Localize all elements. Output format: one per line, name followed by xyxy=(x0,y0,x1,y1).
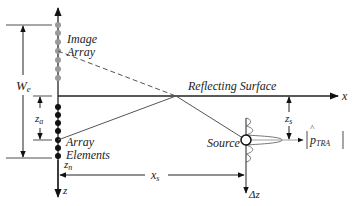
za-label: za xyxy=(34,112,43,126)
svg-text:pTRA: pTRA xyxy=(309,133,330,148)
z-axis-label: z xyxy=(62,184,68,196)
reflected-ray xyxy=(176,96,246,140)
xs-label: xs xyxy=(150,168,159,183)
dz-label: Δz xyxy=(248,188,260,200)
source-label: Source xyxy=(207,136,241,150)
x-axis-label: x xyxy=(341,89,348,103)
direct-ray xyxy=(58,96,176,140)
image-array-label-1: Image xyxy=(66,32,98,46)
array-elements-label-1: Array xyxy=(65,135,95,149)
array-element-dots xyxy=(55,104,61,159)
svg-text:^: ^ xyxy=(310,123,315,133)
zs-label: zs xyxy=(284,112,292,126)
reflecting-surface-label: Reflecting Surface xyxy=(187,79,277,93)
ptra-label: ^ pTRA xyxy=(307,123,343,149)
reflection-geometry-diagram: We za Image Array Array Elements Reflect… xyxy=(0,0,352,206)
array-elements-label-2: Elements xyxy=(65,148,110,162)
image-array-label-2: Array xyxy=(66,45,96,59)
we-label: We xyxy=(16,78,31,94)
source-marker xyxy=(241,135,251,145)
